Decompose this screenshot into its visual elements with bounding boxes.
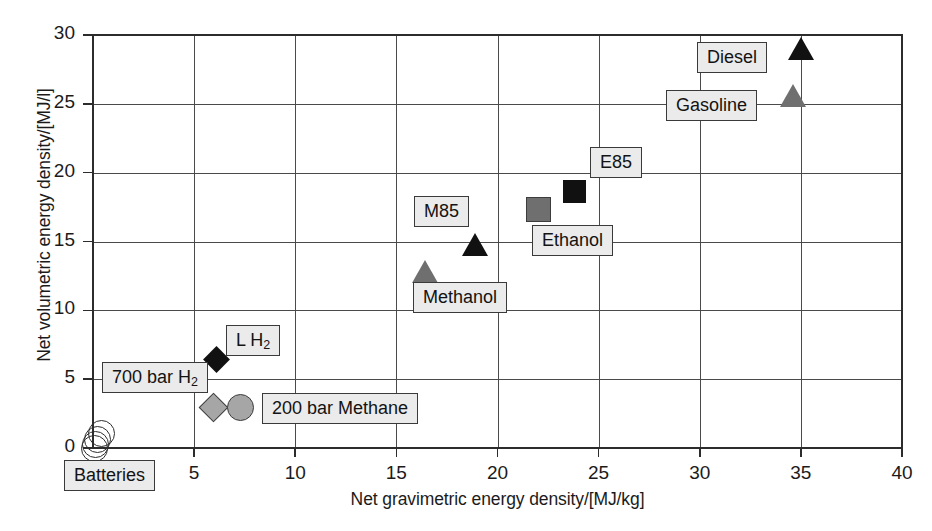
x-tick-mark bbox=[901, 448, 903, 457]
point-label-200-bar-methane: 200 bar Methane bbox=[262, 393, 418, 424]
data-point-triangle bbox=[462, 233, 488, 256]
y-tick-label: 10 bbox=[15, 297, 75, 319]
y-tick-label: 15 bbox=[15, 229, 75, 251]
data-point-triangle bbox=[788, 37, 814, 60]
point-label-diesel: Diesel bbox=[697, 42, 767, 73]
data-point-circle bbox=[227, 394, 254, 421]
x-tick-label: 10 bbox=[265, 462, 325, 484]
gridline-horizontal bbox=[93, 173, 902, 174]
x-tick-label: 25 bbox=[569, 462, 629, 484]
y-tick-label: 20 bbox=[15, 160, 75, 182]
y-tick-label: 5 bbox=[15, 366, 75, 388]
x-tick-label: 30 bbox=[670, 462, 730, 484]
x-tick-label: 20 bbox=[468, 462, 528, 484]
x-tick-label: 40 bbox=[872, 462, 932, 484]
point-label-m85: M85 bbox=[414, 196, 469, 227]
data-point-square bbox=[526, 197, 551, 222]
axis-line-left bbox=[92, 34, 94, 449]
x-tick-label: 35 bbox=[771, 462, 831, 484]
point-label-700-bar-h2: 700 bar H2 bbox=[102, 362, 208, 393]
x-tick-mark bbox=[193, 448, 195, 457]
point-label-gasoline: Gasoline bbox=[666, 90, 757, 121]
point-label-ethanol: Ethanol bbox=[532, 225, 613, 256]
point-label-e85: E85 bbox=[590, 147, 642, 178]
x-axis-title: Net gravimetric energy density/[MJ/kg] bbox=[93, 489, 902, 510]
x-tick-mark bbox=[497, 448, 499, 457]
x-tick-mark bbox=[396, 448, 398, 457]
x-tick-mark bbox=[598, 448, 600, 457]
data-point-diamond bbox=[198, 393, 228, 423]
y-tick-label: 25 bbox=[15, 91, 75, 113]
y-tick-label: 30 bbox=[15, 22, 75, 44]
point-label-batteries: Batteries bbox=[64, 460, 155, 491]
x-tick-mark bbox=[294, 448, 296, 457]
y-tick-label: 0 bbox=[15, 435, 75, 457]
chart-figure: Net volumetric energy density/[MJ/l] Net… bbox=[0, 0, 932, 531]
gridline-horizontal bbox=[93, 379, 902, 380]
axis-line-top bbox=[92, 34, 903, 36]
x-tick-label: 15 bbox=[366, 462, 426, 484]
axis-line-bottom bbox=[92, 447, 903, 449]
data-point-circle bbox=[81, 435, 108, 462]
gridline-horizontal bbox=[93, 242, 902, 243]
x-tick-mark bbox=[800, 448, 802, 457]
data-point-triangle bbox=[780, 84, 806, 107]
point-label-l-h2: L H2 bbox=[226, 325, 280, 356]
data-point-square bbox=[563, 180, 586, 203]
axis-line-right bbox=[901, 34, 903, 448]
x-tick-label: 5 bbox=[164, 462, 224, 484]
x-tick-mark bbox=[699, 448, 701, 457]
data-point-triangle bbox=[412, 260, 438, 283]
plot-area bbox=[93, 35, 902, 448]
point-label-methanol: Methanol bbox=[413, 282, 507, 313]
